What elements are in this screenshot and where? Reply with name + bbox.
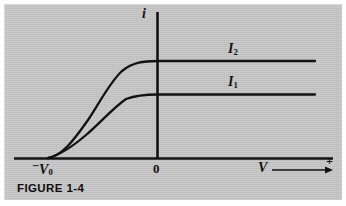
x-axis-label: V <box>258 161 267 175</box>
series-label-i1: I1 <box>228 75 238 89</box>
series-label-i2: I2 <box>228 42 238 56</box>
stopping-potential-label: −V0 <box>32 160 53 177</box>
series-label-i1-subscript: 1 <box>233 80 237 90</box>
origin-label: 0 <box>153 162 160 175</box>
series-label-i2-subscript: 2 <box>233 47 237 57</box>
curve-i2 <box>48 61 315 158</box>
minus-sign: − <box>32 159 39 173</box>
figure-screenshot: i I2 I1 −V0 0 V + FIGURE 1-4 <box>0 0 346 206</box>
figure-caption: FIGURE 1-4 <box>17 182 84 194</box>
curve-i1 <box>48 95 315 159</box>
y-axis-label: i <box>142 7 146 21</box>
positive-sign-label: + <box>326 155 333 167</box>
v0-subscript: 0 <box>48 167 52 177</box>
